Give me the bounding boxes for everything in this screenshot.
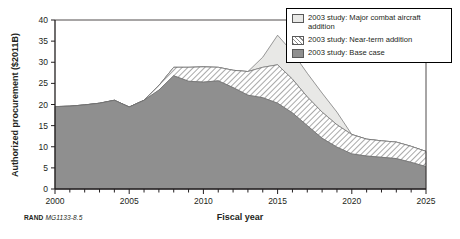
y-tick-label: 10 (39, 142, 49, 152)
x-axis-title: Fiscal year (217, 212, 264, 222)
y-tick-label: 15 (39, 121, 49, 131)
x-tick-label: 2005 (120, 196, 139, 206)
legend-item-major-combat-aircraft: 2003 study: Major combat aircraft additi… (292, 13, 446, 32)
source-note: RAND MG1133-8.5 (24, 214, 83, 221)
legend-item-base-case: 2003 study: Base case (292, 48, 446, 58)
x-tick-label: 2015 (268, 196, 287, 206)
y-tick-label: 0 (43, 184, 48, 194)
gray-solid-swatch-icon (292, 49, 304, 58)
y-tick-label: 35 (39, 36, 49, 46)
legend-label: 2003 study: Near-term addition (308, 35, 412, 44)
x-tick-label: 2010 (194, 196, 213, 206)
y-tick-label: 5 (43, 163, 48, 173)
y-tick-label: 25 (39, 78, 49, 88)
x-tick-label: 2025 (417, 196, 436, 206)
diagonal-hatch-swatch-icon (292, 36, 304, 45)
y-tick-label: 30 (39, 57, 49, 67)
chart-legend: 2003 study: Major combat aircraft additi… (286, 8, 452, 63)
y-axis-tick-labels: 0510152025303540 (39, 15, 49, 194)
x-tick-label: 2000 (46, 196, 65, 206)
series-area-base-case (55, 76, 426, 189)
y-tick-label: 20 (39, 100, 49, 110)
x-tick-label: 2020 (342, 196, 361, 206)
legend-item-near-term: 2003 study: Near-term addition (292, 35, 446, 45)
legend-label: 2003 study: Base case (308, 48, 385, 57)
figure-container: 0510152025303540 20002005201020152020202… (0, 0, 460, 239)
light-solid-swatch-icon (292, 14, 304, 23)
x-axis-tick-labels: 200020052010201520202025 (46, 196, 436, 206)
source-org: RAND (24, 214, 43, 221)
y-axis-title: Authorized procurement ($2011B) (10, 33, 20, 177)
source-doc-id: MG1133-8.5 (45, 214, 82, 221)
x-axis-ticks (55, 189, 426, 194)
legend-label: 2003 study: Major combat aircraft additi… (308, 13, 446, 32)
y-tick-label: 40 (39, 15, 49, 25)
